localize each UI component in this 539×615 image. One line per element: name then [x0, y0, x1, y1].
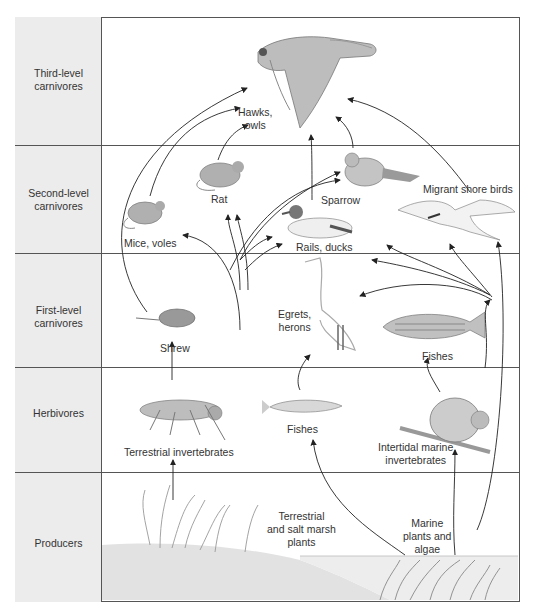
duck-icon — [282, 205, 352, 238]
label-line: plants — [267, 536, 336, 549]
label-terrestrial-salt-marsh-plants: Terrestrial and salt marsh plants — [267, 510, 336, 549]
shrew-icon — [136, 309, 195, 327]
grass-icon — [143, 485, 258, 552]
label-egrets-herons: Egrets, herons — [278, 308, 311, 334]
mouse-icon — [124, 201, 165, 228]
striped-bass-icon — [383, 312, 485, 339]
label-fishes-herbivores: Fishes — [287, 423, 318, 436]
egret-icon — [305, 258, 355, 350]
label-line: algae — [403, 543, 451, 556]
label-line: Intertidal marine — [378, 441, 453, 454]
label-hawks-owls: Hawks, owls — [238, 106, 272, 132]
label-rails-ducks: Rails, ducks — [296, 241, 353, 254]
label-line: Hawks, — [238, 106, 272, 119]
label-line: Egrets, — [278, 308, 311, 321]
label-line: and salt marsh — [267, 523, 336, 536]
label-fishes-first-level: Fishes — [422, 350, 453, 363]
label-terrestrial-invertebrates: Terrestrial invertebrates — [124, 446, 234, 459]
label-intertidal-marine-invertebrates: Intertidal marine invertebrates — [378, 441, 453, 467]
label-rat: Rat — [211, 193, 227, 206]
label-marine-plants-algae: Marine plants and algae — [403, 517, 451, 556]
label-mice-voles: Mice, voles — [124, 237, 177, 250]
label-line: herons — [278, 321, 311, 334]
label-line: Terrestrial — [267, 510, 336, 523]
hawk-icon — [258, 37, 376, 128]
seaweed-icon — [380, 560, 500, 600]
label-shrew: Shrew — [160, 342, 190, 355]
rat-icon — [197, 161, 244, 190]
grasshopper-icon — [140, 400, 225, 440]
small-fish-icon — [262, 400, 342, 414]
label-sparrow: Sparrow — [321, 194, 360, 207]
label-line: owls — [238, 119, 272, 132]
tern-icon — [398, 200, 515, 240]
sparrow-icon — [345, 153, 420, 186]
label-line: Marine — [403, 517, 451, 530]
label-line: plants and — [403, 530, 451, 543]
label-line: invertebrates — [378, 454, 453, 467]
label-migrant-shore-birds: Migrant shore birds — [423, 183, 513, 196]
